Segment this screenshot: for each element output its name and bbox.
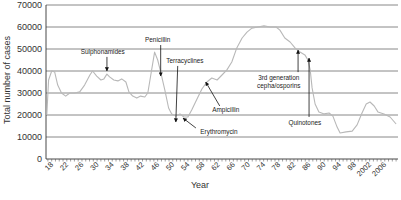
x-tick-label: 30 — [88, 160, 100, 172]
annotation: 3rd generationcepha/osporins — [257, 50, 300, 90]
x-tick-label: 66 — [225, 160, 237, 172]
x-tick-label: 82 — [285, 160, 297, 172]
x-tick-label: 50 — [164, 160, 176, 172]
annotation-label: Penicillin — [145, 36, 171, 43]
y-tick-label: 10000 — [17, 132, 42, 142]
x-tick-label: 86 — [300, 160, 312, 172]
x-tick-label: 94 — [330, 160, 342, 172]
y-tick-label: 60000 — [17, 22, 42, 32]
y-tick-label: 20000 — [17, 110, 42, 120]
x-tick-label: 22 — [58, 160, 70, 172]
horizontal-gridlines — [46, 5, 398, 137]
annotation-label: Ampicillin — [212, 106, 239, 114]
y-tick-label: 30000 — [17, 88, 42, 98]
y-tick-label: 40000 — [17, 66, 42, 76]
x-tick-label: 70 — [240, 160, 252, 172]
annotation-arrow-icon — [183, 118, 196, 128]
annotation-label: Erythromycin — [200, 128, 238, 136]
annotation-label: Quinotones — [289, 119, 322, 127]
annotation-label: cepha/osporins — [257, 82, 300, 90]
y-axis-tick-labels: 010000200003000040000500006000070000 — [17, 0, 42, 164]
annotation: Erythromycin — [183, 118, 238, 136]
annotation-label: Sulphonamides — [81, 48, 125, 56]
x-tick-label: 34 — [103, 160, 115, 172]
annotation-arrow-icon — [176, 66, 178, 122]
y-tick-label: 70000 — [17, 0, 42, 10]
x-tick-label: 62 — [209, 160, 221, 172]
x-tick-label: 46 — [149, 160, 161, 172]
x-tick-label: 54 — [179, 160, 191, 172]
cases-series-line — [47, 26, 396, 133]
x-tick-label: 2006 — [370, 160, 388, 178]
x-axis-title: Year — [191, 180, 209, 190]
y-tick-label: 50000 — [17, 44, 42, 54]
y-tick-label: 0 — [37, 154, 42, 164]
line-chart: 010000200003000040000500006000070000 182… — [0, 0, 401, 200]
y-axis-title: Total number of cases — [2, 35, 12, 124]
annotation: Sulphonamides — [81, 48, 125, 71]
annotation: Ampicillin — [206, 82, 240, 114]
x-tick-label: 42 — [134, 160, 146, 172]
x-tick-label: 26 — [73, 160, 85, 172]
annotation: Quinotones — [289, 58, 322, 127]
annotation-label: Terracyclines — [166, 57, 203, 65]
x-tick-label: 2002 — [355, 160, 373, 178]
annotation-arrow-icon — [206, 82, 220, 106]
x-tick-label: 74 — [255, 160, 267, 172]
annotation: Penicillin — [145, 36, 171, 76]
annotation: Terracyclines — [166, 57, 203, 122]
annotation-label: 3rd generation — [258, 74, 300, 82]
x-tick-label: 90 — [315, 160, 327, 172]
x-tick-label: 58 — [194, 160, 206, 172]
x-tick-label: 38 — [119, 160, 131, 172]
x-tick-label: 78 — [270, 160, 282, 172]
x-axis-tick-labels: 1822263034384246505458626670747882869094… — [43, 160, 388, 178]
antibiotic-annotations: SulphonamidesPenicillinTerracyclinesAmpi… — [81, 36, 321, 136]
x-tick-label: 18 — [43, 160, 55, 172]
